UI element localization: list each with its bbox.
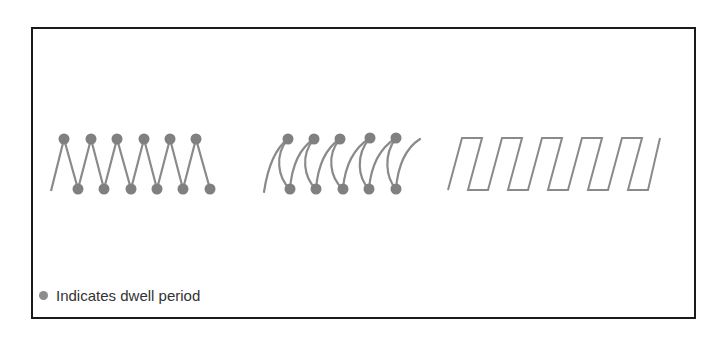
square-wave-pattern (448, 138, 660, 190)
dwell-marker-icon (39, 291, 48, 300)
curve-dwell-dots (283, 133, 402, 195)
zigzag-pattern (51, 139, 210, 191)
legend: Indicates dwell period (39, 287, 200, 304)
legend-label: Indicates dwell period (56, 287, 200, 304)
